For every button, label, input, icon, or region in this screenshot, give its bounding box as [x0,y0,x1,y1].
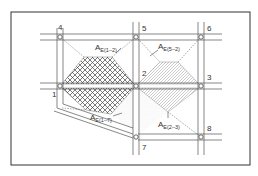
node-label-5: 5 [142,24,147,33]
node-label-2: 2 [142,69,147,78]
node-label-8: 8 [207,124,212,133]
node-label-7: 7 [142,143,147,152]
node-label-4: 4 [58,23,63,32]
node-1 [58,84,62,88]
node-5 [134,35,138,39]
node-label-1: 1 [52,90,57,99]
node-3 [199,84,203,88]
node-8 [199,135,203,139]
node-7 [134,135,138,139]
node-2 [134,84,138,88]
node-label-3: 3 [207,73,212,82]
node-label-6: 6 [207,24,212,33]
node-4 [58,35,62,39]
node-6 [199,35,203,39]
catchment-diagram: 4 5 6 1 2 3 7 8 AE(1–2) AE(5–2) AE(1–7) … [0,0,258,176]
